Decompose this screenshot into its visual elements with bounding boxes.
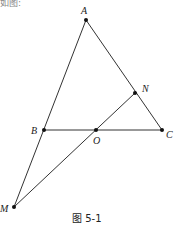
figure-caption: 图 5-1	[72, 213, 102, 224]
label-O: O	[93, 135, 100, 146]
label-C: C	[166, 129, 173, 140]
label-M: M	[0, 203, 9, 214]
points: ANBOCM	[0, 5, 173, 214]
segments	[14, 20, 162, 207]
label-N: N	[141, 83, 150, 94]
point-N	[133, 91, 137, 95]
label-A: A	[80, 5, 88, 16]
point-C	[160, 128, 164, 132]
point-A	[84, 18, 88, 22]
segment-AM	[14, 20, 86, 207]
point-B	[42, 128, 46, 132]
geometry-figure: ANBOCM 图 5-1	[0, 0, 177, 229]
point-M	[12, 205, 16, 209]
segment-AC	[86, 20, 162, 130]
point-O	[94, 128, 98, 132]
label-B: B	[31, 125, 37, 136]
segment-MN	[14, 93, 135, 207]
